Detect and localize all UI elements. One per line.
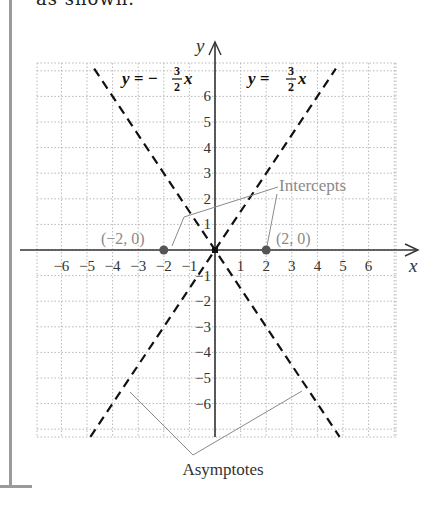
y-tick-label: 1 (204, 216, 212, 232)
asymptotes-label: Asymptotes (182, 460, 263, 479)
intercepts-leader-left (172, 187, 278, 246)
equation-lhs: y = (246, 69, 269, 88)
equation-right-asymptote: y = 32x (246, 64, 307, 94)
equation-variable: x (183, 69, 193, 88)
figure-page: as shown. xy −6−5−4−3−2−1123456654321−1−… (0, 0, 438, 509)
intercepts-label: Intercepts (279, 176, 346, 195)
equation-denominator: 2 (174, 80, 180, 94)
point-label-left: (−2, 0) (101, 230, 145, 248)
intercept-point (159, 246, 168, 255)
x-tick-label: 1 (237, 258, 245, 274)
equation-numerator: 3 (174, 64, 180, 78)
y-tick-label: −3 (195, 319, 211, 335)
y-tick-label: −6 (195, 396, 211, 412)
equation-denominator: 2 (288, 80, 294, 94)
y-tick-label: −2 (195, 293, 211, 309)
y-tick-label: −5 (195, 370, 211, 386)
y-tick-label: −1 (195, 268, 211, 284)
y-tick-label: 6 (204, 88, 212, 104)
y-tick-label: 2 (204, 191, 212, 207)
x-tick-label: 2 (262, 258, 270, 274)
x-tick-label: −2 (156, 258, 172, 274)
x-axis-label: x (408, 255, 418, 276)
equation-left-asymptote: y = −32x (120, 64, 193, 94)
asymptotes-leader (130, 391, 302, 455)
y-tick-label: −4 (195, 344, 211, 360)
y-axis-label: y (194, 35, 205, 56)
point-label-right: (2, 0) (276, 230, 311, 248)
y-tick-label: 3 (204, 165, 212, 181)
hyperbola-graph: xy −6−5−4−3−2−1123456654321−1−2−3−4−5−6y… (0, 0, 438, 509)
x-tick-label: −4 (105, 258, 121, 274)
x-tick-label: 3 (288, 258, 296, 274)
equation-variable: x (297, 69, 307, 88)
x-tick-label: −3 (130, 258, 146, 274)
axes: xy (20, 35, 418, 437)
y-tick-label: 5 (204, 114, 212, 130)
x-tick-label: −6 (53, 258, 69, 274)
equation-lhs: y = − (120, 69, 158, 88)
y-tick-label: 4 (204, 140, 212, 156)
x-tick-label: −5 (79, 258, 95, 274)
x-tick-label: 5 (339, 258, 347, 274)
intercept-point (262, 246, 271, 255)
origin-marker (212, 247, 218, 253)
x-tick-label: 6 (365, 258, 373, 274)
equation-numerator: 3 (288, 64, 294, 78)
x-tick-label: 4 (314, 258, 322, 274)
